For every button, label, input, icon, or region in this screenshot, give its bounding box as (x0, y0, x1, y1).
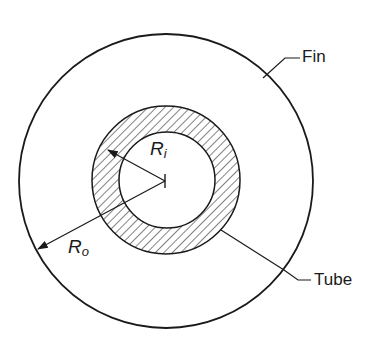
tube-label: Tube (314, 270, 352, 290)
outer-radius-symbol: R (68, 236, 82, 257)
fin-label-text: Fin (302, 47, 326, 66)
inner-radius-label: Ri (150, 138, 167, 161)
tube-label-text: Tube (314, 270, 352, 289)
fin-tube-diagram: Fin Tube Ri Ro (0, 0, 374, 345)
outer-radius-label: Ro (68, 236, 89, 259)
inner-radius-subscript: i (164, 146, 167, 161)
outer-radius-subscript: o (82, 244, 89, 259)
fin-label: Fin (302, 47, 326, 67)
tube-wall-hatch (80, 95, 260, 270)
inner-radius-symbol: R (150, 138, 164, 159)
